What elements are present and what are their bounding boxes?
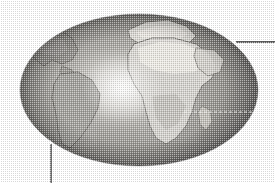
limb-shading (20, 14, 258, 166)
globe-figure (0, 0, 275, 183)
earth-globe (20, 14, 259, 167)
globe-illustration-canvas (0, 0, 275, 183)
